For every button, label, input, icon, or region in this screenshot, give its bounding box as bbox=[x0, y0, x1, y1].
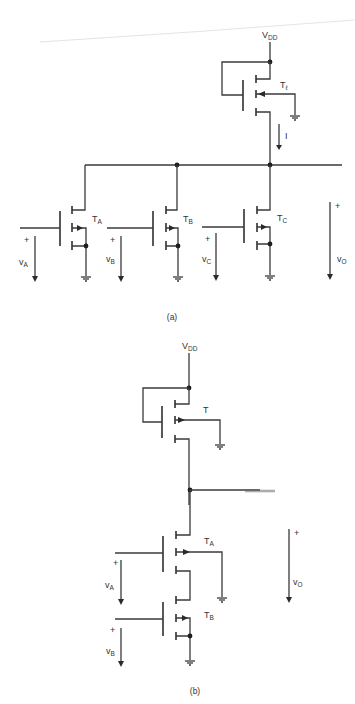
svg-text:+: + bbox=[24, 235, 29, 245]
ground-icon bbox=[173, 277, 183, 281]
transistor-label: TA bbox=[204, 536, 215, 547]
transistor-label: TC bbox=[277, 213, 288, 224]
transistor-label: TA bbox=[92, 214, 103, 225]
svg-text:+: + bbox=[294, 528, 299, 538]
svg-text:+: + bbox=[113, 558, 118, 568]
input-label-vb-b: vB bbox=[106, 646, 115, 657]
circuit-b: VDD T bbox=[105, 341, 303, 696]
svg-text:+: + bbox=[110, 235, 115, 245]
ground-icon bbox=[290, 116, 300, 120]
vdd-label-a: VDD bbox=[262, 30, 278, 41]
input-label-va-b: vA bbox=[105, 580, 115, 591]
transistor-a-a: TA + vA bbox=[19, 165, 103, 282]
transistor-label: TB bbox=[183, 214, 193, 225]
ground-icon bbox=[215, 445, 225, 449]
transistor-label: TB bbox=[204, 610, 214, 621]
ground-icon bbox=[185, 661, 195, 665]
transistor-b-a: TB + vB bbox=[106, 165, 193, 282]
vdd-label-b: VDD bbox=[182, 341, 198, 352]
transistor-c-a: TC + vC bbox=[202, 165, 288, 281]
load-transistor-b: T bbox=[143, 388, 225, 505]
transistor-b-b: TB + vB bbox=[106, 596, 214, 667]
ground-icon bbox=[265, 276, 275, 280]
ground-icon bbox=[81, 277, 91, 281]
output-voltage-b: + vO bbox=[286, 528, 303, 603]
caption-b: (b) bbox=[190, 686, 201, 696]
circuit-diagram: VDD Tℓ bbox=[0, 0, 355, 704]
svg-text:+: + bbox=[110, 625, 115, 635]
load-transistor-label-a: Tℓ bbox=[280, 80, 289, 91]
output-label-a: vO bbox=[337, 254, 347, 265]
input-label-va: vA bbox=[19, 257, 29, 268]
source-a-load bbox=[256, 112, 270, 165]
input-label-vc: vC bbox=[202, 254, 212, 265]
current-label: I bbox=[285, 131, 288, 141]
paper-edge bbox=[40, 20, 355, 42]
load-transistor-label-b: T bbox=[203, 405, 209, 415]
input-label-vb: vB bbox=[106, 254, 115, 265]
svg-text:+: + bbox=[205, 234, 210, 244]
ground-icon bbox=[217, 598, 227, 602]
svg-text:+: + bbox=[335, 201, 340, 211]
output-voltage-a: + vO bbox=[327, 201, 347, 280]
transistor-a-b: TA + vA bbox=[105, 490, 227, 605]
load-transistor-a: Tℓ bbox=[222, 62, 300, 165]
drain-a-load bbox=[256, 62, 270, 79]
output-label-b: vO bbox=[293, 577, 303, 588]
circuit-a: VDD Tℓ bbox=[19, 30, 347, 322]
caption-a: (a) bbox=[167, 312, 178, 322]
